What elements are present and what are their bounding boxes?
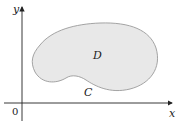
origin-label: 0 (12, 106, 18, 117)
region-label: D (92, 49, 102, 62)
x-axis-label: x (169, 107, 176, 120)
boundary-label: C (84, 86, 93, 99)
diagram-canvas: D C x y 0 (0, 0, 178, 129)
y-axis-label: y (12, 3, 20, 16)
